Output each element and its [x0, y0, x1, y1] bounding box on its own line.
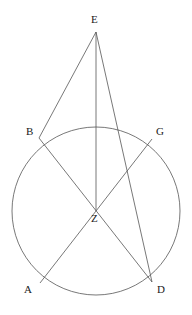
point-label-E: E — [91, 14, 98, 25]
segment-B-D — [39, 138, 152, 282]
segment-group — [39, 32, 152, 283]
point-label-A: A — [24, 284, 32, 295]
point-label-Z: Z — [91, 213, 98, 224]
point-label-D: D — [157, 284, 165, 295]
geometry-canvas — [0, 0, 192, 315]
point-label-G: G — [156, 126, 164, 137]
segment-E-D — [96, 32, 152, 282]
geometry-figure: E B G Z A D — [0, 0, 192, 315]
point-label-B: B — [26, 126, 33, 137]
segment-E-B — [39, 32, 96, 138]
